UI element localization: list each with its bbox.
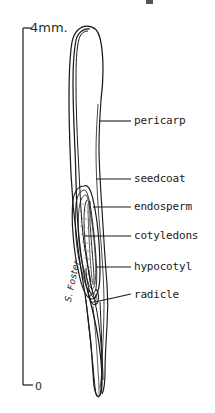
scale-bar-top-label: 4mm.	[30, 21, 68, 34]
leader-line-radicle	[95, 294, 131, 302]
scale-bar-bottom-label: 0	[35, 381, 42, 392]
label-hypocotyl: hypocotyl	[134, 261, 192, 272]
pericarp-right-inner	[96, 104, 104, 388]
label-radicle: radicle	[134, 289, 179, 300]
seed-diagram-figure: 4mm. 0 pericarp seedcoat endosperm cotyl…	[0, 0, 215, 413]
scale-bar-group	[23, 28, 33, 385]
label-pericarp: pericarp	[134, 115, 185, 126]
label-seedcoat: seedcoat	[134, 173, 185, 184]
pericarp-outer-outline	[69, 26, 103, 396]
tail-left-edge	[86, 300, 96, 394]
label-endosperm: endosperm	[134, 201, 192, 212]
label-cotyledons: cotyledons	[134, 230, 198, 241]
